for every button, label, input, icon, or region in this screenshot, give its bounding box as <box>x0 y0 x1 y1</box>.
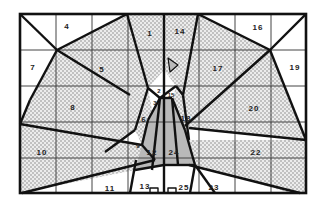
region-label-23: 23 <box>209 183 220 192</box>
region-label-17: 17 <box>213 64 224 73</box>
region-label-12: 12 <box>147 148 158 157</box>
region-label-19: 19 <box>290 63 301 72</box>
region-label-25: 25 <box>179 183 190 192</box>
region-label-4: 4 <box>64 22 69 31</box>
region-label-16: 16 <box>253 23 264 32</box>
region-label-5: 5 <box>99 65 104 74</box>
region-label-11: 11 <box>105 184 115 193</box>
region-label-15: 15 <box>168 92 175 98</box>
region-label-18: 18 <box>181 114 192 123</box>
region-label-13: 13 <box>140 182 151 191</box>
region-label-9: 9 <box>136 143 139 149</box>
region-label-20: 20 <box>249 104 260 113</box>
region-label-2: 2 <box>157 88 160 94</box>
region-label-6: 6 <box>141 115 146 124</box>
region-label-1: 1 <box>147 29 152 38</box>
region-label-14: 14 <box>175 27 186 36</box>
region-label-3: 3 <box>153 100 156 106</box>
region-label-7: 7 <box>30 63 35 72</box>
region-label-8: 8 <box>70 103 75 112</box>
region-label-24: 24 <box>169 148 180 157</box>
region-label-22: 22 <box>251 148 262 157</box>
peacock-diagram <box>0 0 322 207</box>
region-label-10: 10 <box>37 148 48 157</box>
